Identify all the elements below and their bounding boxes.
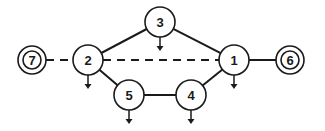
node-label: 6 [286,53,293,68]
network-diagram: 1234567 [0,0,325,131]
down-arrow-icon [126,110,133,124]
edge-3-1 [173,29,220,53]
node-label: 3 [156,15,163,30]
node-label: 7 [28,53,35,68]
node-6: 6 [276,46,304,74]
down-arrow-icon [157,37,164,51]
node-3: 3 [145,7,175,37]
edge-2-3 [101,29,146,53]
edge-2-5 [99,70,117,86]
node-2: 2 [73,45,103,75]
node-7: 7 [18,46,46,74]
down-arrow-icon [85,75,92,89]
down-arrow-icon [231,75,238,89]
node-label: 1 [230,53,237,68]
node-5: 5 [114,80,144,110]
node-label: 2 [84,53,91,68]
down-arrow-icon [188,110,195,124]
node-1: 1 [219,45,249,75]
node-label: 4 [187,88,195,103]
edge-4-1 [203,70,223,86]
node-label: 5 [125,88,132,103]
node-4: 4 [176,80,206,110]
